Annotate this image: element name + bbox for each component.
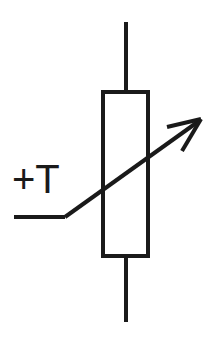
thermistor-symbol-svg: +T — [0, 0, 210, 337]
plus-t-label: +T — [12, 157, 60, 201]
thermistor-symbol-canvas: +T — [0, 0, 210, 337]
